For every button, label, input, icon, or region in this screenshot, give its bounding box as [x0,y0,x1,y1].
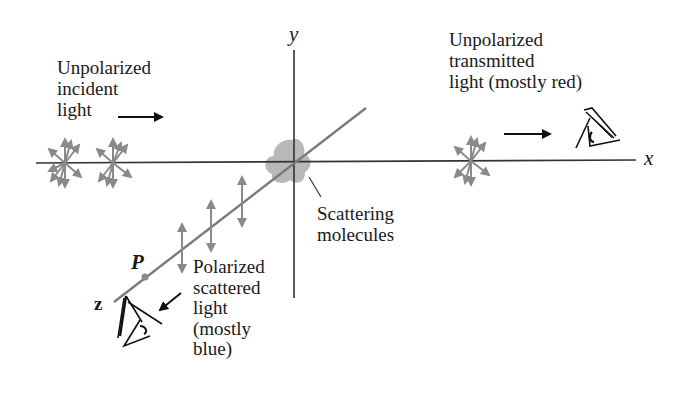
incident-light-label: Unpolarized incident light [57,57,151,120]
eye-icon-z [118,296,162,346]
point-p-label: P [131,250,144,275]
scattered-light-label: Polarized scattered light (mostly blue) [193,257,265,360]
molecules-pointer-line [309,177,321,197]
x-axis [36,160,636,163]
polarization-diagram: y x z P Unpolarized incident light Unpol… [0,0,682,397]
scattered-direction-arrow [160,293,181,310]
eye-icon-right [576,108,620,148]
scattering-molecules-label: Scattering molecules [317,203,394,245]
x-axis-label: x [644,146,653,171]
transmitted-light-label: Unpolarized transmitted light (mostly re… [449,29,582,92]
y-axis-label: y [289,22,298,47]
z-axis-label: z [94,293,102,315]
